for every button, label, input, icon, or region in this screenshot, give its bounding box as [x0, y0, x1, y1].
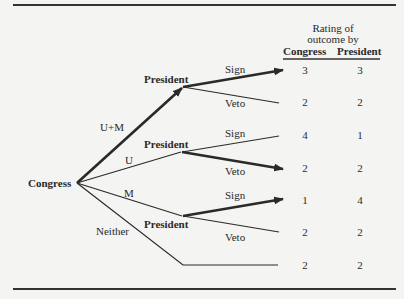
outcome-congress: 2 [299, 97, 311, 108]
outcome-congress: 4 [299, 130, 311, 141]
move-um: U+M [100, 122, 124, 133]
move-u: U [125, 155, 133, 166]
outcome-congress: 2 [299, 260, 311, 271]
move-p2-veto: Veto [225, 166, 245, 177]
outcome-president: 3 [354, 65, 366, 76]
outcome-congress: 1 [299, 195, 311, 206]
node-president-3: President [144, 219, 188, 230]
move-p2-sign: Sign [225, 128, 245, 139]
outcome-president: 4 [354, 195, 366, 206]
move-p3-veto: Veto [225, 232, 245, 243]
column-header-congress: Congress [283, 46, 326, 57]
move-p3-sign: Sign [225, 190, 245, 201]
node-president-2: President [144, 139, 188, 150]
move-p1-veto: Veto [225, 98, 245, 109]
outcome-congress: 2 [299, 227, 311, 238]
outcome-president: 2 [354, 163, 366, 174]
move-m: M [124, 188, 134, 199]
outcome-president: 2 [354, 260, 366, 271]
outcome-congress: 2 [299, 163, 311, 174]
move-p1-sign: Sign [225, 64, 245, 75]
header-line2: outcome by [290, 33, 376, 45]
outcome-president: 2 [354, 227, 366, 238]
node-president-1: President [144, 74, 188, 85]
edge-p3-sign [183, 199, 283, 216]
node-congress: Congress [28, 178, 71, 189]
move-neither: Neither [96, 226, 129, 237]
outcome-president: 2 [354, 97, 366, 108]
edge-um [77, 88, 182, 183]
column-header-president: President [337, 46, 381, 57]
outcome-congress: 3 [299, 65, 311, 76]
edge-p3-veto [183, 216, 279, 232]
outcome-president: 1 [354, 130, 366, 141]
